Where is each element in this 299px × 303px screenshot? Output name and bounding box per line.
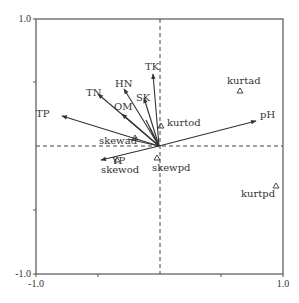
label-TK: TK xyxy=(145,61,160,72)
y-tick-top: 1.0 xyxy=(19,13,32,24)
label-TN: TN xyxy=(86,87,102,98)
label-skewad: skewad xyxy=(99,135,138,146)
label-skewpd: skewpd xyxy=(152,162,191,173)
x-tick-right: 1.0 xyxy=(277,278,290,289)
point-kurtad xyxy=(237,88,243,93)
arrow-YP xyxy=(101,146,159,160)
point-kurtod xyxy=(158,123,164,128)
label-SK: SK xyxy=(136,92,151,103)
label-kurtad: kurtad xyxy=(227,75,261,86)
label-kurtpd: kurtpd xyxy=(241,188,276,199)
label-TP: TP xyxy=(36,108,50,119)
biplot-chart: 1.0 -1.0 -1.0 1.0 TP TN HN OM SK TK pH Y… xyxy=(0,0,299,303)
label-skewod: skewod xyxy=(101,164,140,175)
label-OM: OM xyxy=(114,101,132,112)
label-pH: pH xyxy=(260,109,275,120)
axis-ticks xyxy=(33,19,283,277)
label-HN: HN xyxy=(115,78,133,89)
label-kurtod: kurtod xyxy=(167,117,201,128)
point-skewpd xyxy=(154,155,160,160)
x-tick-left: -1.0 xyxy=(28,278,44,289)
